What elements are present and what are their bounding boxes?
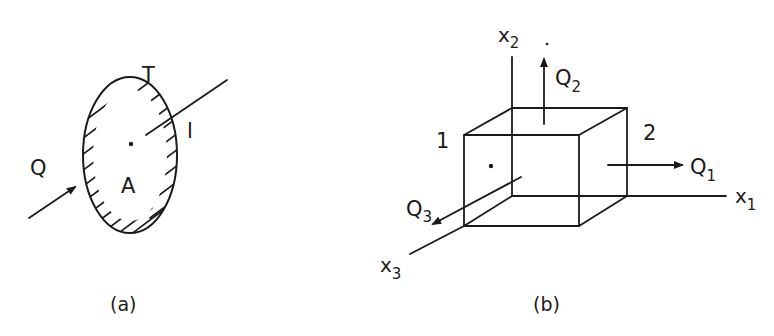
box-edge [464,196,512,226]
figure-b: x2 x1 x3 Q2 Q1 Q3 1 2 (b) [380,23,756,315]
label-q3: Q3 [406,197,432,226]
figure-a: T l Q A (a) [29,63,227,315]
box-edge [579,108,627,135]
flux-arrow-q [29,187,75,218]
label-q2: Q2 [555,66,581,96]
caption-b: (b) [533,293,560,315]
center-point [129,142,133,146]
diagram-canvas: T l Q A (a) [0,0,774,336]
axis-x3 [410,226,464,254]
label-a: A [121,174,136,198]
label-l: l [187,119,193,143]
box-edge [464,108,512,135]
label-q1: Q1 [690,155,716,185]
hatching [70,74,190,238]
box-front-face [464,135,579,226]
caption-a: (a) [110,293,136,315]
center-point [489,164,493,168]
label-face-2: 2 [643,121,656,145]
label-face-1: 1 [436,129,449,153]
label-t: T [141,63,155,87]
label-x2: x2 [498,23,519,52]
stray-dot [546,43,549,46]
box-edge [579,196,627,226]
label-x1: x1 [735,184,756,214]
label-x3: x3 [380,253,401,283]
label-q: Q [30,156,47,180]
